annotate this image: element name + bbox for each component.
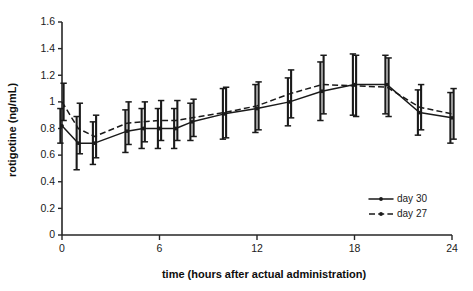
data-point-marker (320, 89, 324, 93)
data-point-marker (418, 111, 422, 115)
y-tick-label: 0.6 (40, 148, 55, 160)
series-lines (62, 85, 452, 144)
y-tick-label: 0.2 (40, 202, 55, 214)
y-axis-title: rotigotine (ng/mL) (6, 83, 18, 177)
data-point-marker (223, 112, 227, 116)
data-point-marker (76, 141, 80, 145)
series-line-day-30 (62, 85, 452, 144)
data-point-marker (60, 124, 64, 128)
axes (62, 22, 452, 235)
data-point-marker (158, 127, 162, 131)
legend-label-day-27: day 27 (397, 208, 427, 219)
data-point-marker (255, 107, 259, 111)
data-point-marker (190, 120, 194, 124)
error-bars (57, 54, 457, 170)
legend-sample-marker (379, 212, 383, 216)
rotigotine-concentration-time-chart: 00.20.40.60.811.21.41.6 06121824 day 30d… (0, 0, 473, 291)
x-axis-ticks: 06121824 (59, 235, 458, 254)
data-point-marker (141, 127, 145, 131)
x-tick-label: 6 (157, 242, 163, 254)
x-axis-title: time (hours after actual administration) (162, 268, 366, 280)
legend-sample-marker (379, 197, 383, 201)
y-tick-label: 0.8 (40, 122, 55, 134)
x-tick-label: 18 (349, 242, 361, 254)
y-tick-label: 0 (49, 228, 55, 240)
data-point-marker (385, 83, 389, 87)
legend: day 30day 27 (369, 193, 427, 219)
y-axis-ticks: 00.20.40.60.811.21.41.6 (40, 15, 62, 240)
x-tick-label: 0 (59, 242, 65, 254)
legend-label-day-30: day 30 (397, 193, 427, 204)
data-point-marker (288, 100, 292, 104)
data-point-marker (353, 83, 357, 87)
data-point-marker (174, 127, 178, 131)
y-tick-label: 0.4 (40, 175, 55, 187)
y-tick-label: 1 (49, 95, 55, 107)
data-point-marker (450, 116, 454, 120)
data-point-marker (125, 129, 129, 133)
x-tick-label: 24 (446, 242, 458, 254)
chart-container: 00.20.40.60.811.21.41.6 06121824 day 30d… (0, 0, 473, 291)
x-tick-label: 12 (251, 242, 263, 254)
y-tick-label: 1.4 (40, 42, 55, 54)
y-tick-label: 1.2 (40, 69, 55, 81)
data-point-marker (93, 141, 97, 145)
y-tick-label: 1.6 (40, 15, 55, 27)
series-line-day-27 (62, 85, 452, 137)
